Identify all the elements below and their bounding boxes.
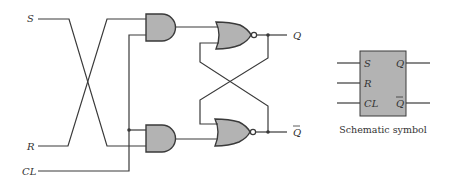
wire-s [38, 19, 147, 146]
nor-gate-top [216, 22, 251, 49]
symbol-pin-r-label: R [363, 78, 372, 89]
output-q-label: Q [293, 30, 301, 41]
input-s-label: S [27, 13, 34, 24]
symbol-pin-cl-label: CL [364, 98, 379, 109]
junction-dot-cl [127, 128, 131, 132]
wire-cl [38, 35, 147, 171]
symbol-pin-q-label: Q [396, 58, 404, 69]
symbol-caption: Schematic symbol [339, 124, 427, 135]
and-gate-bottom [146, 125, 176, 152]
input-r-label: R [26, 141, 35, 152]
nor-gate-bottom [215, 119, 250, 146]
wire-feedback-q [200, 35, 268, 124]
schematic-symbol: S R CL Q Q Schematic symbol [337, 51, 430, 135]
symbol-pin-qbar-label: Q [396, 98, 404, 109]
symbol-pin-s-label: S [364, 58, 371, 69]
output-qbar-label: Q [293, 127, 301, 138]
input-cl-label: CL [22, 166, 37, 177]
nor-bottom-bubble [250, 129, 255, 134]
sr-flip-flop-diagram: S R CL Q Q S R CL Q Q Schemat [0, 0, 450, 180]
wire-r [38, 19, 147, 146]
and-gate-top [146, 14, 176, 41]
nor-top-bubble [251, 32, 256, 37]
wire-feedback-qbar [200, 43, 268, 132]
